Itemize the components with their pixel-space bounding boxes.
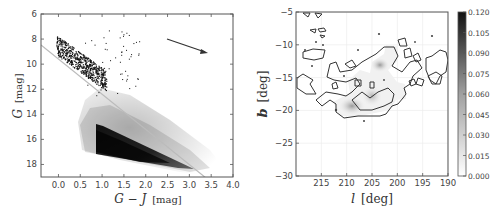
colorbar-tick-label: 0.015 — [468, 152, 490, 161]
x-tick-label: 2.5 — [161, 180, 175, 190]
y-tick-label: 12 — [26, 84, 37, 94]
arrow-head-icon — [200, 49, 208, 54]
density-peak-upper — [371, 58, 389, 72]
colorbar-tick-label: 0.105 — [468, 29, 490, 38]
x-tick-label: 1.5 — [117, 180, 131, 190]
y-tick-label: 18 — [26, 159, 37, 169]
cmd-y-axis-label: G [mag] — [11, 73, 25, 118]
sky-y-axis-label: b [deg] — [255, 71, 270, 118]
y-tick-label: −15 — [275, 73, 293, 83]
sky-map-area — [296, 12, 448, 176]
sky-x-axis-label: l [deg] — [351, 191, 393, 206]
x-tick-label: 0.5 — [74, 180, 88, 190]
cmd-x-axis-label: G − J [mag] — [114, 192, 182, 206]
y-tick-label: −25 — [275, 138, 293, 148]
colorbar-tick-label: 0.000 — [468, 172, 490, 181]
candidate-star-points — [56, 30, 140, 96]
colorbar-tick-label: 0.120 — [468, 8, 490, 17]
cmd-plot: 0.00.51.01.52.02.53.03.54.0 681012141618… — [11, 9, 240, 206]
colorbar: 0.1200.1050.0900.0750.0600.0450.0300.015… — [458, 8, 490, 181]
y-tick-label: −5 — [280, 7, 293, 17]
colorbar-tick-label: 0.045 — [468, 111, 490, 120]
x-tick-label: 215 — [313, 178, 329, 188]
y-tick-label: −10 — [275, 40, 293, 50]
x-tick-label: 0.0 — [52, 180, 66, 190]
cmd-plot-area — [41, 30, 225, 178]
colorbar-tick-label: 0.060 — [468, 90, 490, 99]
x-tick-label: 210 — [339, 178, 355, 188]
y-tick-label: 16 — [26, 134, 37, 144]
x-tick-label: 3.5 — [204, 180, 218, 190]
colorbar-ticks: 0.1200.1050.0900.0750.0600.0450.0300.015… — [463, 8, 490, 181]
x-tick-label: 2.0 — [139, 180, 153, 190]
x-tick-label: 3.0 — [183, 180, 197, 190]
colorbar-tick-label: 0.030 — [468, 131, 490, 140]
x-tick-label: 195 — [415, 178, 431, 188]
y-tick-label: 10 — [26, 59, 37, 69]
y-tick-label: −30 — [275, 171, 293, 181]
y-tick-label: 14 — [26, 109, 37, 119]
x-tick-label: 4.0 — [226, 180, 240, 190]
figure: 0.00.51.01.52.02.53.03.54.0 681012141618… — [0, 0, 497, 214]
reddening-arrow — [167, 39, 205, 52]
x-tick-label: 190 — [440, 178, 456, 188]
x-tick-label: 205 — [364, 178, 380, 188]
colorbar-tick-label: 0.090 — [468, 49, 490, 58]
y-tick-label: 8 — [32, 34, 37, 44]
x-tick-label: 200 — [389, 178, 405, 188]
x-tick-label: 1.0 — [95, 180, 109, 190]
colorbar-tick-label: 0.075 — [468, 70, 490, 79]
y-tick-label: 6 — [32, 9, 37, 19]
sky-density-map: 215210205200195190 −5−10−15−20−25−30 l [… — [255, 7, 456, 206]
y-tick-label: −20 — [275, 105, 293, 115]
sky-y-ticks: −5−10−15−20−25−30 — [275, 7, 299, 181]
sky-x-ticks: 215210205200195190 — [313, 173, 456, 188]
